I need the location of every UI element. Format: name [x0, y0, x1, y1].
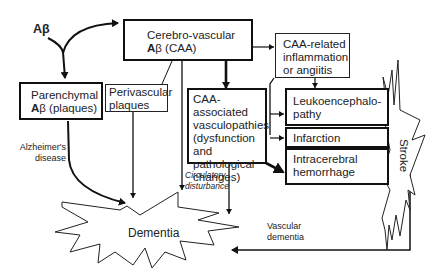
node-text-rest: β (CAA) — [155, 42, 196, 54]
node-text: Infarction — [293, 132, 387, 145]
node-text: vasculopathies — [193, 119, 265, 132]
leukoencephalopathy-node: Leukoencephalo- pathy — [285, 88, 389, 126]
label-text: Alzheimer's — [18, 142, 66, 153]
node-text: Intracerebral — [293, 153, 387, 166]
node-text: Aβ (CAA) — [147, 42, 251, 55]
node-text: and pathological — [193, 145, 265, 171]
caa-to-perivascular-line — [162, 61, 172, 84]
node-text: CAA- — [193, 93, 265, 106]
parenchymal-to-dementia-arrow — [68, 121, 125, 203]
cerebrovascular-abeta-node: Cerebro-vascular Aβ (CAA) — [123, 19, 253, 61]
node-text-rest: β (plaques) — [39, 102, 97, 114]
label-text: Vascular — [267, 221, 304, 232]
node-text: Parenchymal — [31, 89, 101, 102]
node-text: (dysfunction — [193, 132, 265, 145]
infarction-node: Infarction — [285, 127, 389, 148]
abeta-to-parenchymal-arrow — [63, 52, 65, 78]
node-text: Aβ (plaques) — [31, 102, 101, 115]
node-text: pathy — [293, 108, 387, 121]
alzheimers-disease-label: Alzheimer's disease — [18, 142, 66, 164]
vascular-dementia-label: Vascular dementia — [267, 221, 304, 243]
caa-vasculopathies-node: CAA- associated vasculopathies (dysfunct… — [187, 88, 267, 164]
dementia-label: Dementia — [128, 226, 179, 240]
perivascular-plaques-node: Perivascular plaques — [105, 84, 168, 112]
parenchymal-abeta-node: Parenchymal Aβ (plaques) — [19, 82, 103, 120]
node-text: inflammation — [283, 51, 349, 64]
stroke-label: Stroke — [398, 136, 409, 176]
label-text: dementia — [267, 232, 304, 243]
caa-inflammation-node: CAA-related inflammation or angiitis — [275, 33, 350, 78]
node-text: or angiitis — [283, 64, 349, 77]
circulatory-disturbance-label: Circulatory disturbance — [185, 170, 229, 192]
vasculopathy-to-hemorrhage-arrow — [266, 163, 283, 172]
label-text: disturbance — [185, 181, 229, 192]
node-text: Leukoencephalo- — [293, 95, 387, 108]
label-text: disease — [18, 153, 66, 164]
intracerebral-hemorrhage-node: Intracerebral hemorrhage — [285, 148, 389, 185]
label-text: Circulatory — [185, 170, 229, 181]
node-text: Perivascular — [109, 86, 167, 99]
node-text: hemorrhage — [293, 166, 387, 179]
abeta-root-label: Aβ — [33, 24, 50, 35]
abeta-to-caa-arrow — [48, 23, 118, 53]
node-text: plaques — [109, 99, 167, 112]
node-text: CAA-related — [283, 38, 349, 51]
node-text: associated — [193, 106, 265, 119]
node-text: Cerebro-vascular — [147, 29, 251, 42]
